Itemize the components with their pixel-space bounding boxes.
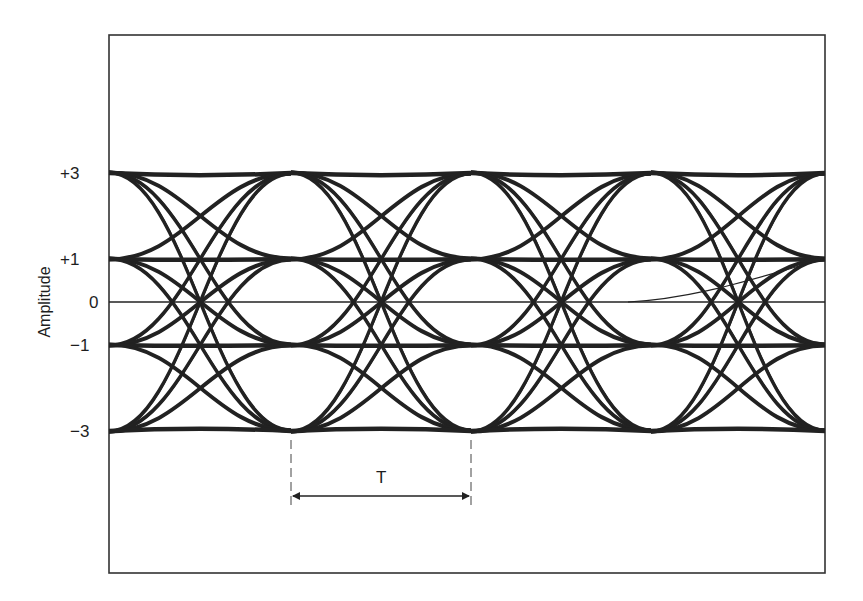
y-axis-label: Amplitude [36, 262, 54, 342]
level-label-minus1: −1 [70, 337, 89, 354]
plot-frame [109, 35, 825, 573]
eye-diagram-plot [0, 0, 863, 601]
level-label-zero: 0 [89, 294, 98, 311]
level-label-minus3: −3 [70, 423, 89, 440]
period-label: T [376, 468, 386, 488]
arrowhead-right-icon [462, 492, 470, 500]
level-label-plus3: +3 [60, 165, 79, 182]
arrowhead-left-icon [292, 492, 300, 500]
level-label-plus1: +1 [60, 251, 79, 268]
